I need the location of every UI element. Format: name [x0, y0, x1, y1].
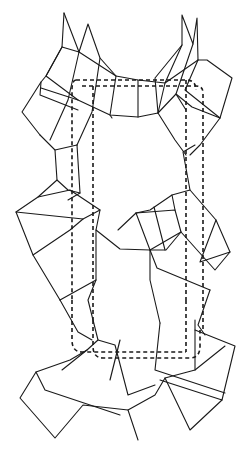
framework-bond — [128, 410, 138, 440]
framework-bond — [60, 230, 96, 300]
unit-cell-edge — [72, 300, 186, 352]
framework-bond — [158, 113, 186, 155]
framework-bond — [198, 290, 210, 335]
framework-bond — [158, 83, 165, 113]
framework-bond — [150, 250, 160, 323]
framework-bond — [36, 372, 120, 415]
framework-bond — [165, 378, 222, 430]
framework-diagram — [0, 0, 245, 449]
framework-bond — [150, 232, 210, 290]
framework-svg — [0, 0, 245, 449]
framework-bond — [57, 180, 80, 193]
framework-bond — [60, 300, 92, 340]
framework-bond — [64, 13, 79, 52]
framework-bond — [110, 76, 116, 118]
framework-bond — [62, 350, 87, 370]
framework-bond — [22, 47, 62, 135]
framework-bond — [98, 340, 155, 395]
framework-bond — [154, 207, 165, 250]
unit-cell-edge — [82, 86, 203, 330]
unit-cell-edge — [72, 80, 76, 300]
framework-bond — [62, 13, 116, 76]
framework-bond — [20, 280, 225, 438]
framework-bond — [190, 118, 220, 155]
framework-bond — [46, 47, 78, 100]
framework-edges — [16, 13, 235, 440]
framework-bond — [38, 190, 181, 250]
framework-bond — [55, 145, 77, 150]
framework-bond — [136, 213, 150, 250]
framework-bond — [33, 219, 83, 255]
framework-bond — [160, 330, 235, 400]
framework-bond — [16, 135, 60, 300]
framework-bond — [16, 210, 100, 219]
